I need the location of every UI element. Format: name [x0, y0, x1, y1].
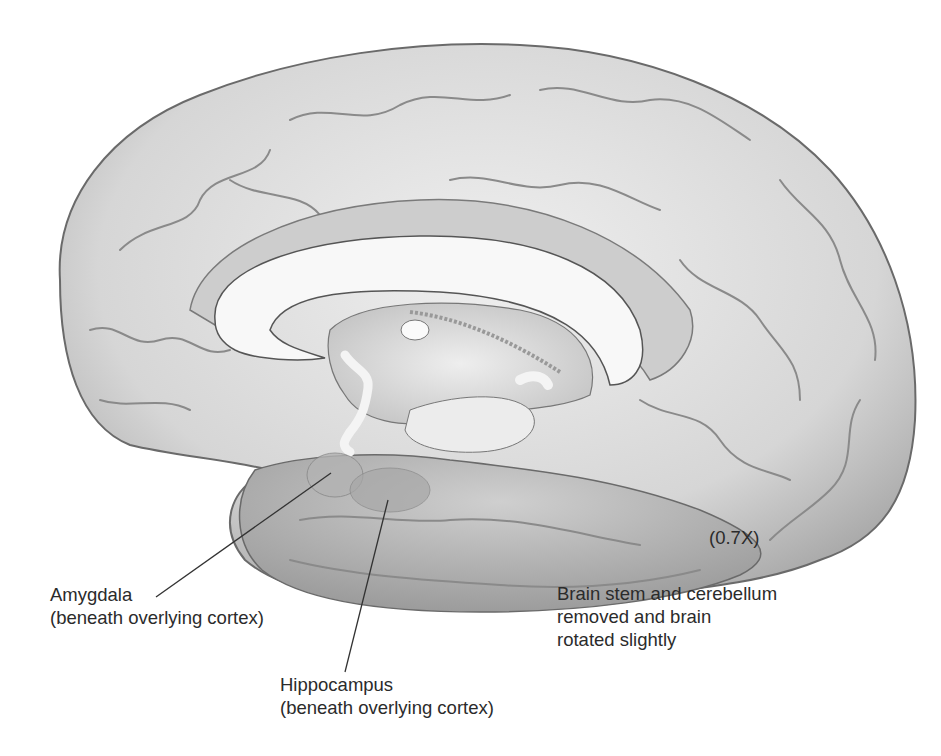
hypothalamus: [405, 397, 534, 452]
interthalamic-adhesion: [401, 320, 429, 340]
hippocampus: [350, 468, 430, 512]
caption-line-3: rotated slightly: [557, 628, 777, 651]
amygdala-name: Amygdala: [50, 583, 264, 606]
caption: Brain stem and cerebellum removed and br…: [557, 582, 777, 651]
amygdala-label: Amygdala (beneath overlying cortex): [50, 583, 264, 629]
caption-line-2: removed and brain: [557, 605, 777, 628]
hippocampus-note: (beneath overlying cortex): [280, 696, 494, 719]
hippocampus-name: Hippocampus: [280, 673, 494, 696]
hippocampus-label: Hippocampus (beneath overlying cortex): [280, 673, 494, 719]
amygdala-note: (beneath overlying cortex): [50, 606, 264, 629]
caption-line-1: Brain stem and cerebellum: [557, 582, 777, 605]
brain-illustration: [0, 0, 941, 756]
scale-label: (0.7X): [709, 526, 759, 549]
